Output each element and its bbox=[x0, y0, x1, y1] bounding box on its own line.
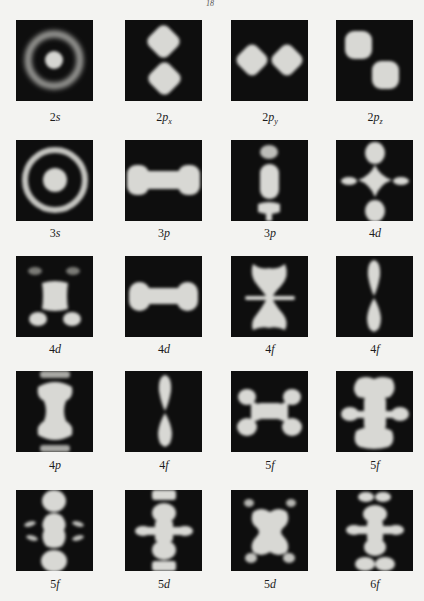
orbital-image-5f-column bbox=[16, 490, 93, 571]
orbital-4d-icon bbox=[336, 140, 413, 221]
orbital-image-4f-bowtie bbox=[231, 256, 308, 337]
orbital-label-2pz: 2pz bbox=[325, 110, 424, 129]
orbital-image-6f-column bbox=[336, 490, 413, 571]
orbital-label-3p: 3p bbox=[114, 226, 214, 240]
orbital-2pz-icon bbox=[336, 20, 413, 101]
orbital-5f-icon bbox=[16, 490, 93, 571]
orbital-4f-icon bbox=[231, 256, 308, 337]
orbital-5d-icon bbox=[125, 490, 202, 571]
orbital-image-4d-cross bbox=[336, 140, 413, 221]
orbital-image-2px bbox=[125, 20, 202, 101]
orbital-image-2s bbox=[16, 20, 93, 101]
orbital-label-2s: 2s bbox=[5, 110, 105, 124]
orbital-label-4f: 4f bbox=[325, 342, 424, 356]
orbital-image-2pz bbox=[336, 20, 413, 101]
orbital-3p-icon bbox=[231, 140, 308, 221]
orbital-image-5d-column bbox=[125, 490, 202, 571]
orbital-image-2py bbox=[231, 20, 308, 101]
orbital-image-5f-x bbox=[231, 371, 308, 452]
orbital-label-4p: 4p bbox=[5, 458, 105, 472]
orbital-2s-icon bbox=[16, 20, 93, 101]
orbital-label-6f: 6f bbox=[325, 577, 424, 591]
orbital-4f-icon bbox=[336, 256, 413, 337]
orbital-5f-icon bbox=[231, 371, 308, 452]
orbital-label-4d: 4d bbox=[325, 226, 424, 240]
orbital-image-4f-vertical bbox=[336, 256, 413, 337]
orbital-4f-icon bbox=[125, 371, 202, 452]
orbital-2px-icon bbox=[125, 20, 202, 101]
orbital-label-3s: 3s bbox=[5, 226, 105, 240]
orbital-5d-icon bbox=[231, 490, 308, 571]
orbital-label-4f: 4f bbox=[220, 342, 320, 356]
orbital-label-5f: 5f bbox=[325, 458, 424, 472]
orbital-label-5d: 5d bbox=[114, 577, 214, 591]
orbital-image-3p-horizontal bbox=[125, 140, 202, 221]
orbital-image-5f-bear bbox=[336, 371, 413, 452]
orbital-image-4d-clover bbox=[16, 256, 93, 337]
orbital-label-2py: 2py bbox=[220, 110, 320, 129]
orbital-3p-icon bbox=[125, 140, 202, 221]
orbital-2py-icon bbox=[231, 20, 308, 101]
orbital-image-4f-vertical-2 bbox=[125, 371, 202, 452]
orbital-image-5d-clover bbox=[231, 490, 308, 571]
orbital-5f-icon bbox=[336, 371, 413, 452]
orbital-3s-icon bbox=[16, 140, 93, 221]
orbital-image-3s bbox=[16, 140, 93, 221]
page-top-mark: 18 bbox=[206, 0, 214, 8]
orbital-label-4d: 4d bbox=[114, 342, 214, 356]
orbital-label-5d: 5d bbox=[220, 577, 320, 591]
orbital-label-4d: 4d bbox=[5, 342, 105, 356]
orbital-4p-icon bbox=[16, 371, 93, 452]
orbital-label-4f: 4f bbox=[114, 458, 214, 472]
orbital-label-2px: 2px bbox=[114, 110, 214, 129]
orbital-4d-icon bbox=[125, 256, 202, 337]
orbital-label-3p: 3p bbox=[220, 226, 320, 240]
orbital-image-4p bbox=[16, 371, 93, 452]
orbital-4d-icon bbox=[16, 256, 93, 337]
orbital-label-5f: 5f bbox=[220, 458, 320, 472]
orbital-6f-icon bbox=[336, 490, 413, 571]
orbital-label-5f: 5f bbox=[5, 577, 105, 591]
orbital-image-4d-dumbbell bbox=[125, 256, 202, 337]
orbital-image-3p-vertical bbox=[231, 140, 308, 221]
